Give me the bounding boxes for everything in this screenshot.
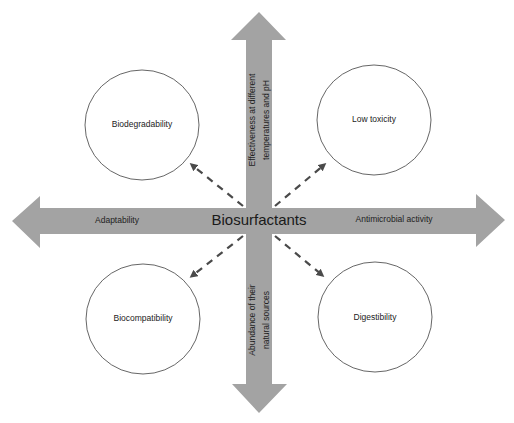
- dashed-arrow-bottom-left: [192, 236, 243, 276]
- circle-label-bottom-right: Digestibility: [325, 312, 425, 323]
- dashed-arrow-bottom-right: [275, 236, 322, 275]
- down-arrow-label: Abundance of their natural sources: [245, 284, 273, 355]
- up-arrow-label: Effectiveness at different temperatures …: [245, 74, 273, 167]
- up-arrow-label-line1: Effectiveness at different: [245, 74, 259, 167]
- up-arrow-label-line2: temperatures and pH: [259, 74, 273, 167]
- circle-label-bottom-left: Biocompatibility: [93, 313, 193, 324]
- biosurfactants-diagram: Biosurfactants Adaptability Antimicrobia…: [0, 0, 514, 423]
- dashed-arrow-top-left: [192, 165, 243, 206]
- center-label: Biosurfactants: [199, 211, 319, 230]
- circle-label-top-right: Low toxicity: [324, 114, 424, 125]
- dashed-arrow-top-right: [275, 165, 324, 206]
- circle-label-top-left: Biodegradability: [92, 119, 192, 130]
- right-arrow-label: Antimicrobial activity: [339, 214, 449, 225]
- left-arrow-label: Adaptability: [80, 215, 154, 226]
- down-arrow-label-line2: natural sources: [259, 284, 273, 355]
- down-arrow-label-line1: Abundance of their: [245, 284, 259, 355]
